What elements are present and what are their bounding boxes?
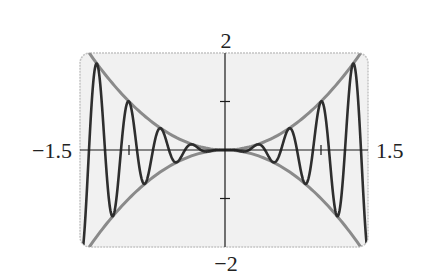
function-plot: 2 −2 −1.5 1.5 [0,0,431,275]
y-min-label: −2 [214,251,237,275]
x-max-label: 1.5 [376,138,404,163]
y-max-label: 2 [221,28,232,53]
x-min-label: −1.5 [32,138,72,163]
